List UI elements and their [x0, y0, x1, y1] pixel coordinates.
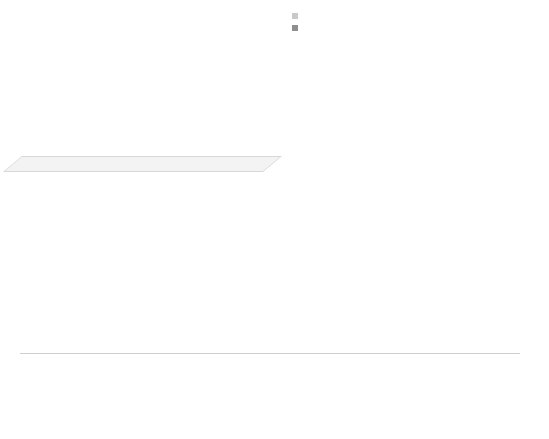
chart-legend	[292, 13, 304, 37]
chart-top-plot-area	[24, 26, 286, 158]
chart-bottom-plot-area	[20, 188, 518, 353]
chart-bottom-baseline	[20, 353, 520, 354]
chart-top-floor	[3, 156, 282, 172]
chart-top-countries	[0, 18, 290, 173]
legend-swatch-min-icon	[292, 13, 298, 19]
legend-swatch-max-icon	[292, 25, 298, 31]
legend-item-min	[292, 13, 304, 19]
chart-bottom-countries	[0, 188, 549, 439]
legend-item-max	[292, 25, 304, 31]
